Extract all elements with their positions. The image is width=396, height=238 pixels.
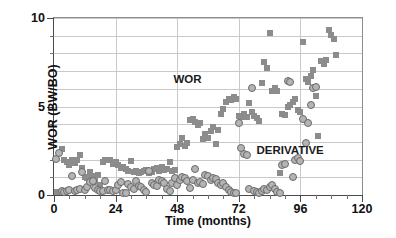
y-gridline <box>54 107 362 108</box>
data-point-wor <box>259 80 265 86</box>
x-axis-title: Time (months) <box>53 214 363 228</box>
data-point-wor <box>128 158 134 164</box>
data-point-wor <box>310 67 316 73</box>
data-point-wor <box>308 73 314 79</box>
data-point-wor <box>184 140 190 146</box>
x-axis-minor-tick <box>131 195 132 199</box>
y-axis-title: WOR (BW/BO) <box>46 27 60 187</box>
data-point-derivative <box>101 177 109 185</box>
data-point-derivative <box>142 188 150 196</box>
data-point-wor <box>213 141 219 147</box>
x-axis-tick <box>177 195 178 202</box>
data-point-derivative <box>307 101 315 109</box>
data-point-wor <box>172 167 178 173</box>
data-point-wor <box>333 52 339 58</box>
data-point-wor <box>331 36 337 42</box>
x-axis-tick <box>300 195 301 202</box>
data-point-wor <box>246 100 252 106</box>
data-point-wor <box>315 133 321 139</box>
data-point-derivative <box>235 119 243 127</box>
y-axis-tick-label: 5 <box>38 100 45 114</box>
plot-area: 0510024487296120WORDERIVATIVE <box>53 17 363 196</box>
data-point-wor <box>277 170 283 176</box>
x-axis-minor-tick <box>285 195 286 199</box>
y-axis-tick <box>47 18 54 19</box>
data-point-wor <box>264 65 270 71</box>
x-axis-minor-tick <box>69 195 70 199</box>
x-axis-minor-tick <box>270 195 271 199</box>
x-axis-minor-tick <box>347 195 348 199</box>
data-point-wor <box>323 57 329 63</box>
x-gridline <box>116 18 117 195</box>
data-point-wor <box>77 152 83 158</box>
x-axis-minor-tick <box>316 195 317 199</box>
data-point-derivative <box>186 184 194 192</box>
x-axis-tick <box>362 195 363 202</box>
data-point-derivative <box>243 151 251 159</box>
data-point-derivative <box>166 187 174 195</box>
x-axis-minor-tick <box>162 195 163 199</box>
data-point-wor <box>274 88 280 94</box>
data-point-wor <box>197 120 203 126</box>
data-point-wor <box>267 30 273 36</box>
x-axis-minor-tick <box>331 195 332 199</box>
x-axis-minor-tick <box>193 195 194 199</box>
data-point-wor <box>215 127 221 133</box>
data-point-derivative <box>145 167 153 175</box>
y-gridline <box>54 18 362 19</box>
y-gridline <box>54 36 362 37</box>
data-point-derivative <box>199 180 207 188</box>
annotation-derivative: DERIVATIVE <box>256 144 323 156</box>
data-point-wor <box>292 96 298 102</box>
data-point-derivative <box>248 84 256 92</box>
data-point-wor <box>313 93 319 99</box>
data-point-derivative <box>312 83 320 91</box>
data-point-derivative <box>296 157 304 165</box>
x-gridline <box>239 18 240 195</box>
x-axis-minor-tick <box>208 195 209 199</box>
y-axis-title-wrap: WOR (BW/BO) <box>22 17 36 196</box>
data-point-wor <box>233 96 239 102</box>
wor-diagnostic-chart: 0510024487296120WORDERIVATIVE WOR (BW/BO… <box>0 0 396 238</box>
data-point-derivative <box>78 168 86 176</box>
data-point-derivative <box>304 119 312 127</box>
data-point-derivative <box>191 165 199 173</box>
x-axis-minor-tick <box>85 195 86 199</box>
y-axis-tick <box>47 195 54 196</box>
x-axis-tick <box>54 195 55 202</box>
y-axis-tick-label: 0 <box>38 188 45 202</box>
data-point-wor <box>282 112 288 118</box>
x-axis-minor-tick <box>100 195 101 199</box>
data-point-wor <box>205 135 211 141</box>
data-point-wor <box>256 118 262 124</box>
data-point-derivative <box>289 173 297 181</box>
data-point-wor <box>300 39 306 45</box>
data-point-derivative <box>232 189 240 197</box>
data-point-derivative <box>286 78 294 86</box>
data-point-wor <box>95 172 101 178</box>
data-point-derivative <box>281 160 289 168</box>
data-point-wor <box>167 159 173 165</box>
x-axis-tick <box>116 195 117 202</box>
data-point-derivative <box>276 189 284 197</box>
data-point-derivative <box>68 172 76 180</box>
x-axis-minor-tick <box>223 195 224 199</box>
y-gridline <box>54 142 362 143</box>
y-gridline <box>54 53 362 54</box>
data-point-wor <box>244 114 250 120</box>
y-gridline <box>54 124 362 125</box>
data-point-wor <box>220 106 226 112</box>
annotation-wor: WOR <box>173 73 201 85</box>
